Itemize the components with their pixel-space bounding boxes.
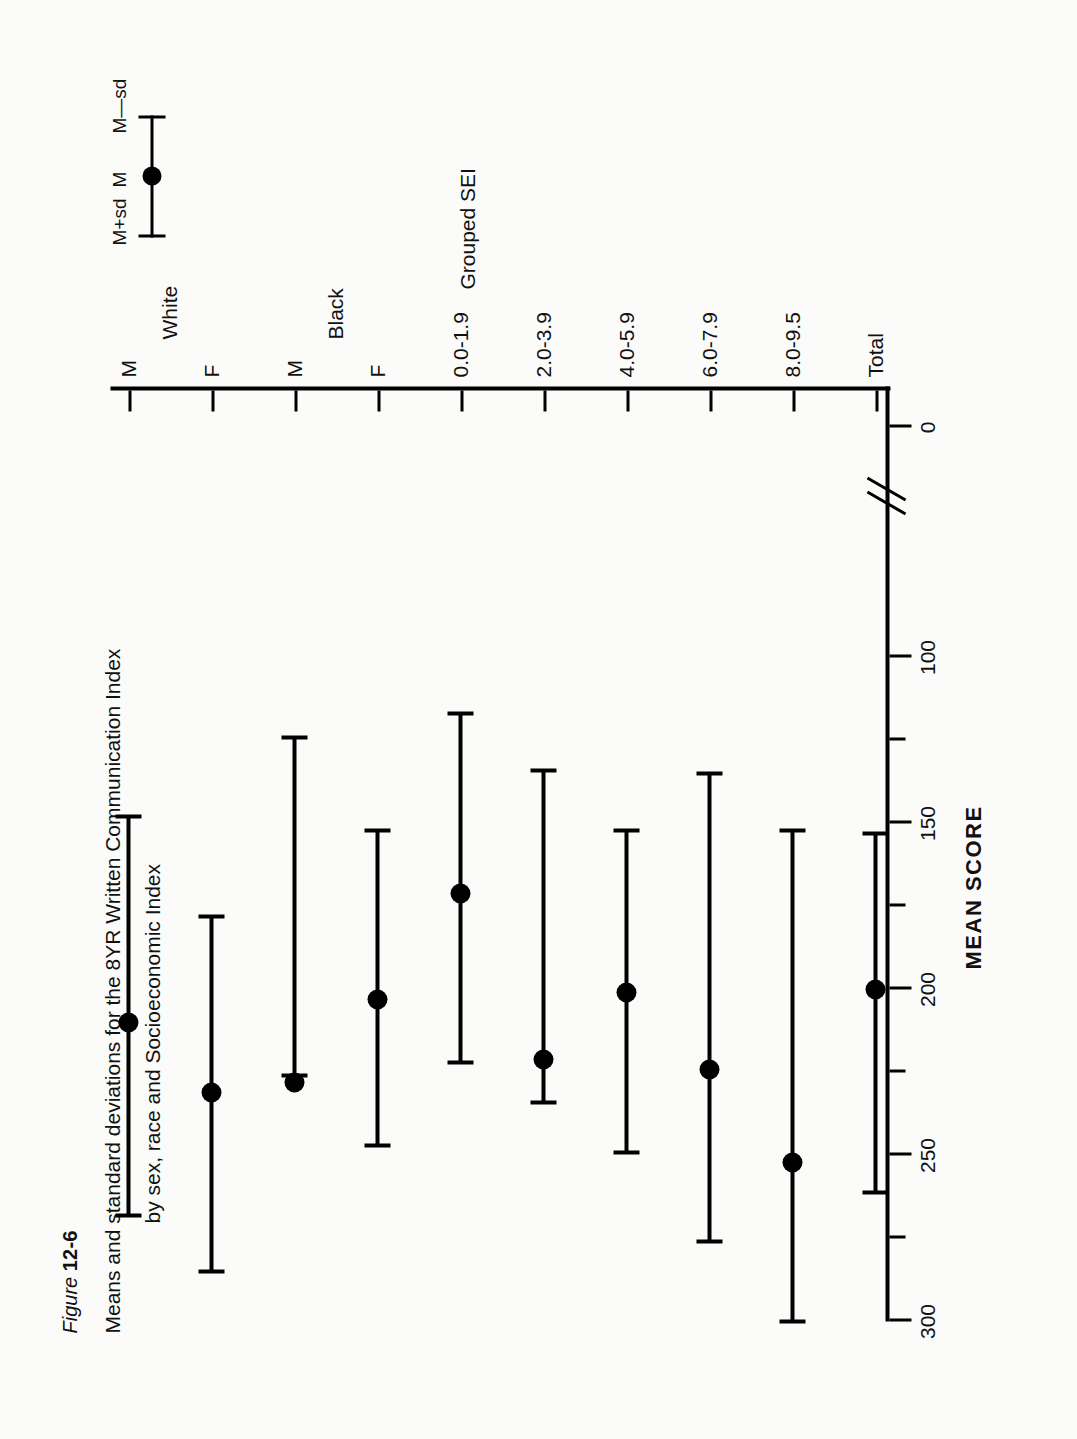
category-tick — [294, 390, 297, 411]
category-group-label: White — [157, 285, 181, 339]
value-tick-label: 200 — [915, 971, 939, 1006]
error-bar-cap-lower — [862, 831, 888, 835]
mean-marker-dot — [284, 1072, 304, 1092]
error-bar-line — [707, 773, 711, 1241]
value-tick-label: 250 — [915, 1137, 939, 1172]
value-tick-minor — [889, 1235, 905, 1238]
value-tick-minor — [889, 1069, 905, 1072]
error-bar-line — [790, 830, 794, 1321]
category-label: 2.0-3.9 — [531, 312, 555, 377]
error-bar-cap-lower — [613, 828, 639, 832]
category-tick — [211, 390, 214, 411]
category-label: F — [199, 364, 223, 377]
mean-marker-dot — [782, 1152, 802, 1172]
error-bar-cap-upper — [115, 1213, 141, 1217]
mean-marker-dot — [616, 982, 636, 1002]
error-bar-cap-lower — [198, 914, 224, 918]
category-axis-title: Grouped SEI — [455, 168, 479, 289]
value-tick-major — [889, 424, 911, 427]
category-tick — [128, 390, 131, 411]
category-tick — [709, 390, 712, 411]
error-bar-cap-upper — [696, 1239, 722, 1243]
error-bar-cap-upper — [198, 1269, 224, 1273]
rotated-figure-stage: Figure 12-6 Means and standard deviation… — [0, 0, 1077, 1439]
error-bar-cap-lower — [779, 828, 805, 832]
value-tick-label: 0 — [915, 421, 939, 433]
error-bar-line — [375, 830, 379, 1145]
category-label: 4.0-5.9 — [614, 312, 638, 377]
value-axis-line — [885, 386, 889, 1321]
mean-marker-dot — [865, 979, 885, 999]
plot-area: MEAN SCORE Grouped SEI 3002502001501000 … — [0, 0, 1077, 1439]
category-tick — [792, 390, 795, 411]
error-bar-cap-upper — [862, 1190, 888, 1194]
category-group-label: Black — [323, 288, 347, 339]
category-tick — [460, 390, 463, 411]
value-tick-major — [889, 1318, 911, 1321]
value-tick-label: 150 — [915, 805, 939, 840]
error-bar-cap-lower — [364, 828, 390, 832]
value-tick-major — [889, 986, 911, 989]
mean-marker-dot — [533, 1049, 553, 1069]
category-axis-line — [110, 386, 890, 390]
error-bar-cap-lower — [530, 768, 556, 772]
figure-12-6: Figure 12-6 Means and standard deviation… — [0, 0, 1077, 1439]
category-label: M — [116, 360, 140, 378]
value-tick-major — [889, 654, 911, 657]
error-bar-cap-upper — [364, 1143, 390, 1147]
category-tick — [543, 390, 546, 411]
axis-break-marker — [864, 458, 910, 504]
mean-marker-dot — [450, 883, 470, 903]
value-tick-label: 100 — [915, 639, 939, 674]
category-label: M — [282, 360, 306, 378]
error-bar-cap-lower — [281, 735, 307, 739]
mean-marker-dot — [367, 989, 387, 1009]
error-bar-cap-lower — [115, 814, 141, 818]
error-bar-cap-lower — [696, 771, 722, 775]
category-tick — [875, 390, 878, 411]
category-label: Total — [863, 333, 887, 377]
category-label: F — [365, 364, 389, 377]
error-bar-cap-lower — [447, 711, 473, 715]
value-tick-major — [889, 1152, 911, 1155]
value-axis-title: MEAN SCORE — [960, 805, 986, 969]
error-bar-cap-upper — [447, 1060, 473, 1064]
category-tick — [626, 390, 629, 411]
category-tick — [377, 390, 380, 411]
value-tick-minor — [889, 903, 905, 906]
mean-marker-dot — [118, 1012, 138, 1032]
value-tick-minor — [889, 737, 905, 740]
error-bar-line — [873, 833, 877, 1192]
error-bar-line — [292, 737, 296, 1076]
value-tick-label: 300 — [915, 1303, 939, 1338]
mean-marker-dot — [201, 1082, 221, 1102]
category-label: 6.0-7.9 — [697, 312, 721, 377]
mean-marker-dot — [699, 1059, 719, 1079]
error-bar-cap-upper — [613, 1150, 639, 1154]
error-bar-cap-upper — [779, 1319, 805, 1323]
error-bar-cap-upper — [530, 1100, 556, 1104]
category-label: 8.0-9.5 — [780, 312, 804, 377]
category-label: 0.0-1.9 — [448, 312, 472, 377]
value-tick-major — [889, 820, 911, 823]
